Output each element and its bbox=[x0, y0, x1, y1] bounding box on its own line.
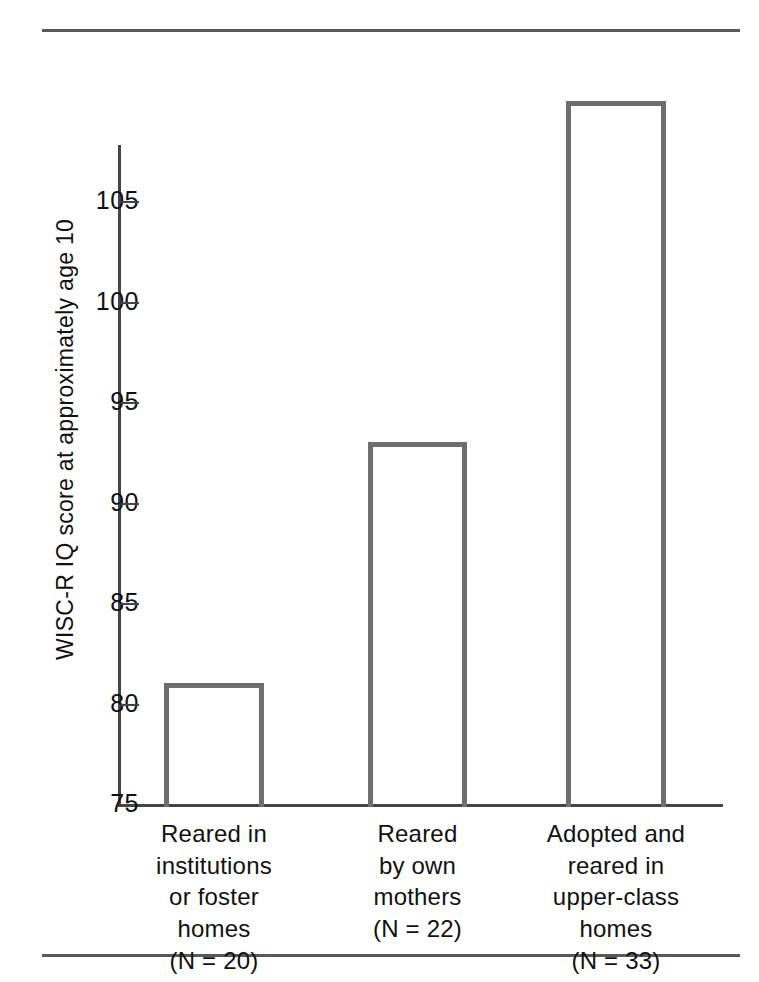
category-label-line: (N = 22) bbox=[310, 913, 525, 945]
category-label-line: (N = 33) bbox=[508, 945, 724, 977]
category-label-1: Reared ininstitutionsor fosterhomes(N = … bbox=[106, 818, 322, 976]
figure-canvas: WISC-R IQ score at approximately age 10 … bbox=[0, 0, 759, 982]
y-tick-mark bbox=[121, 201, 139, 203]
category-label-line: Reared in bbox=[106, 818, 322, 850]
category-label-line: (N = 20) bbox=[106, 945, 322, 977]
y-tick-label: 75 bbox=[67, 791, 139, 816]
plot-area: WISC-R IQ score at approximately age 10 … bbox=[0, 0, 759, 982]
y-tick-mark bbox=[121, 603, 139, 605]
category-label-3: Adopted andreared inupper-classhomes(N =… bbox=[508, 818, 724, 976]
category-label-line: homes bbox=[508, 913, 724, 945]
category-label-line: reared in bbox=[508, 850, 724, 882]
bar-2 bbox=[368, 442, 467, 807]
bar-1 bbox=[164, 683, 264, 807]
category-label-line: or foster bbox=[106, 881, 322, 913]
category-label-2: Rearedby ownmothers(N = 22) bbox=[310, 818, 525, 945]
category-label-line: homes bbox=[106, 913, 322, 945]
bar-3 bbox=[566, 101, 666, 808]
y-tick-mark bbox=[121, 302, 139, 304]
y-tick-mark bbox=[121, 503, 139, 505]
category-label-line: institutions bbox=[106, 850, 322, 882]
category-label-line: Reared bbox=[310, 818, 525, 850]
y-axis-title: WISC-R IQ score at approximately age 10 bbox=[52, 20, 79, 660]
y-tick-mark bbox=[121, 704, 139, 706]
category-label-line: Adopted and bbox=[508, 818, 724, 850]
category-label-line: by own bbox=[310, 850, 525, 882]
category-label-line: mothers bbox=[310, 881, 525, 913]
y-tick-mark bbox=[121, 402, 139, 404]
category-label-line: upper-class bbox=[508, 881, 724, 913]
